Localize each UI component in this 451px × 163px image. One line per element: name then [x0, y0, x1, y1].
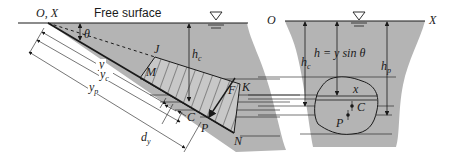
theta-label: θ: [84, 27, 90, 41]
centroid-label-right: C: [357, 100, 366, 114]
corner-label-n: N: [233, 134, 243, 148]
dy-dimension-label: dy: [141, 130, 151, 146]
h-equation-label: h = y sin θ: [314, 46, 365, 60]
force-label: F: [227, 83, 236, 97]
corner-label-k: K: [241, 80, 251, 94]
hydrostatic-force-diagram: θ hc F J M K N C P O, X Free surface: [0, 0, 451, 163]
free-surface-label: Free surface: [94, 6, 162, 20]
left-panel: θ hc F J M K N C P O, X Free surface: [18, 6, 300, 152]
centroid-label-left: C: [187, 110, 196, 124]
origin-label-left: O, X: [36, 6, 59, 20]
pressure-center-label-left: P: [200, 121, 209, 135]
plate-shape-right: [315, 77, 378, 135]
origin-label-right: O: [267, 13, 276, 27]
corner-label-j: J: [154, 42, 160, 56]
strip-label: x: [352, 82, 359, 96]
x-axis-label: X: [428, 13, 437, 27]
corner-label-m: M: [145, 65, 157, 79]
pressure-center-label-right: P: [335, 116, 344, 130]
